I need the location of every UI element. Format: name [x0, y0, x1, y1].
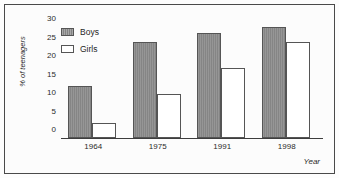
y-tick-label: 30 [47, 14, 56, 23]
bar-boys-1975 [133, 42, 157, 138]
bar-group [197, 27, 247, 138]
x-tick-label-1964: 1964 [63, 142, 123, 151]
x-axis-line [61, 138, 323, 139]
y-tick-label: 15 [47, 69, 56, 78]
bar-girls-1964 [92, 123, 116, 138]
x-tick-label-1991: 1991 [192, 142, 252, 151]
bar-boys-1991 [197, 33, 221, 138]
bar-group [133, 27, 183, 138]
x-tick-label-1998: 1998 [257, 142, 317, 151]
y-axis-title: % of teenagers [18, 17, 27, 107]
bar-girls-1991 [221, 68, 245, 138]
x-axis-title: Year [304, 157, 320, 166]
bar-girls-1998 [286, 42, 310, 138]
bar-girls-1975 [157, 94, 181, 138]
chart-figure: % of teenagers 051015202530 Boys Girls Y… [0, 0, 339, 178]
y-tick-label: 10 [47, 88, 56, 97]
bar-group [262, 27, 312, 138]
y-tick-label: 0 [52, 125, 56, 134]
y-tick-label: 20 [47, 51, 56, 60]
chart-frame: % of teenagers 051015202530 Boys Girls Y… [4, 4, 335, 174]
bar-boys-1998 [262, 27, 286, 138]
y-tick-label: 25 [47, 32, 56, 41]
x-tick-label-1975: 1975 [128, 142, 188, 151]
bar-boys-1964 [68, 86, 92, 138]
y-tick-label: 5 [52, 106, 56, 115]
bar-group [68, 27, 118, 138]
